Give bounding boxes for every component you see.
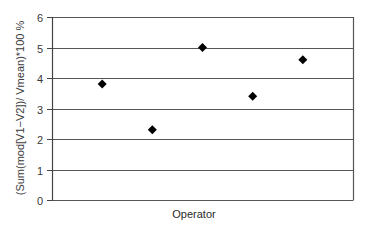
- y-axis-ticks: 0123456: [37, 12, 52, 207]
- diamond-marker-icon: [98, 80, 107, 89]
- x-axis-label: Operator: [172, 208, 215, 220]
- y-tick-label: 2: [37, 134, 43, 146]
- y-tick-label: 4: [37, 73, 43, 85]
- y-tick-label: 1: [37, 165, 43, 177]
- y-tick-label: 5: [37, 43, 43, 55]
- y-tick-label: 6: [37, 12, 43, 24]
- y-tick-label: 0: [37, 195, 43, 207]
- data-points: [98, 43, 308, 134]
- y-axis-label: (Sum(mod[V1−V2])/ Vmean)*100 %: [14, 21, 26, 196]
- diamond-marker-icon: [198, 43, 207, 52]
- diamond-marker-icon: [298, 55, 307, 64]
- y-tick-label: 3: [37, 104, 43, 116]
- scatter-chart: 0123456: [0, 0, 368, 232]
- diamond-marker-icon: [148, 125, 157, 134]
- diamond-marker-icon: [248, 92, 257, 101]
